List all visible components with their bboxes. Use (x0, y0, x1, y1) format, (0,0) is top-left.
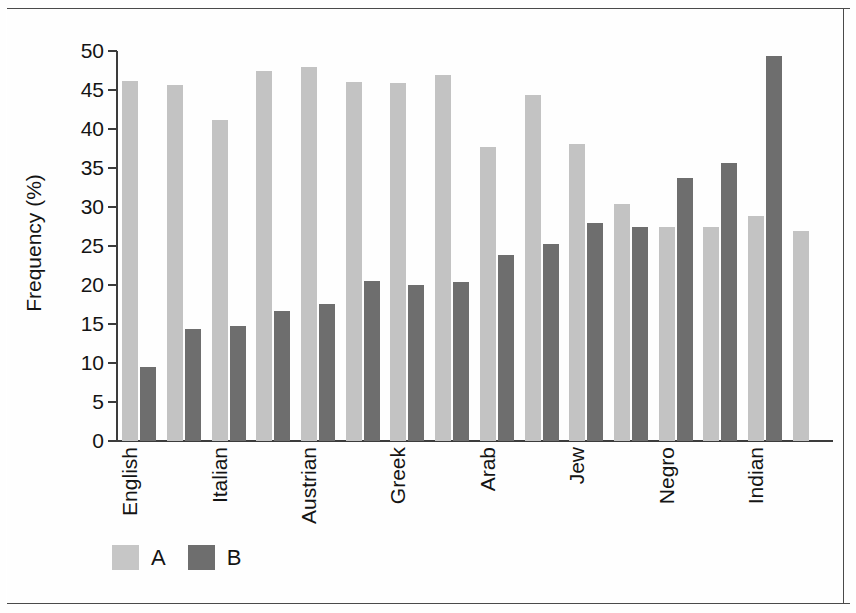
bar-b-group-3 (230, 326, 246, 441)
y-axis-tick (108, 362, 117, 364)
bar-b-group-12 (632, 227, 648, 441)
figure-frame-top-border (6, 8, 850, 9)
bar-a-group-13 (659, 227, 675, 441)
bar-a-group-4 (256, 71, 272, 441)
y-axis-tick (108, 89, 117, 91)
y-axis-tick-label: 10 (58, 352, 104, 373)
bar-b-group-9 (498, 255, 514, 441)
x-axis-tick-label-italian: Italian (208, 447, 232, 557)
bar-b-group-10 (543, 244, 559, 441)
bar-b-group-2 (185, 329, 201, 441)
y-axis-title: Frequency (%) (23, 113, 45, 373)
y-axis-tick-label: 40 (58, 118, 104, 139)
bar-a-group-5 (301, 67, 317, 441)
x-axis-tick-labels: EnglishItalianAustrianGreekArabJewNegroI… (0, 447, 856, 557)
y-axis-tick (108, 50, 117, 52)
y-axis-tick-label: 15 (58, 313, 104, 334)
bar-a-group-16 (793, 231, 809, 441)
legend-label-a: A (151, 547, 166, 569)
bar-b-group-11 (587, 223, 603, 441)
y-axis-tick-label: 5 (58, 391, 104, 412)
figure-container: 50454035302520151050 Frequency (%) Engli… (0, 0, 856, 613)
legend-label-b: B (227, 547, 242, 569)
bar-b-group-1 (140, 367, 156, 441)
y-axis-tick (108, 401, 117, 403)
bar-b-group-5 (319, 304, 335, 441)
bar-b-group-4 (274, 311, 290, 441)
y-axis-tick (108, 167, 117, 169)
x-axis-tick-label-english: English (118, 447, 142, 557)
legend-swatch-b-icon (188, 545, 215, 570)
x-axis-tick-label-austrian: Austrian (297, 447, 321, 557)
bar-b-group-6 (364, 281, 380, 441)
y-axis-tick (108, 440, 117, 442)
legend-swatch-a-icon (112, 545, 139, 570)
y-axis-tick (108, 128, 117, 130)
x-axis-tick-label-greek: Greek (386, 447, 410, 557)
plot-area (117, 51, 832, 441)
x-axis-tick-label-negro: Negro (655, 447, 679, 557)
bar-a-group-8 (435, 75, 451, 441)
y-axis-tick (108, 206, 117, 208)
bar-b-group-13 (677, 178, 693, 441)
bar-a-group-2 (167, 85, 183, 441)
x-axis-tick-label-jew: Jew (565, 447, 589, 557)
legend-item-a: A (112, 545, 166, 570)
bar-a-group-11 (569, 144, 585, 441)
bar-a-group-7 (390, 83, 406, 441)
y-axis-tick (108, 284, 117, 286)
bar-b-group-14 (721, 163, 737, 441)
chart-legend: AB (112, 545, 241, 570)
y-axis-tick-label: 50 (58, 40, 104, 61)
y-axis-tick-label: 30 (58, 196, 104, 217)
y-axis-tick-label: 20 (58, 274, 104, 295)
y-axis-tick-label: 45 (58, 79, 104, 100)
bar-a-group-1 (122, 81, 138, 441)
bar-b-group-15 (766, 56, 782, 441)
bar-a-group-6 (346, 82, 362, 441)
y-axis-tick (108, 245, 117, 247)
bar-a-group-3 (212, 120, 228, 441)
bar-b-group-8 (453, 282, 469, 441)
bar-a-group-10 (525, 95, 541, 441)
figure-frame-bottom-border (6, 603, 850, 604)
bar-b-group-7 (408, 285, 424, 441)
y-axis-tick-label: 25 (58, 235, 104, 256)
x-axis-tick-label-arab: Arab (476, 447, 500, 557)
y-axis-tick-label: 35 (58, 157, 104, 178)
y-axis-tick (108, 323, 117, 325)
bar-a-group-12 (614, 204, 630, 441)
x-axis-tick-label-indian: Indian (744, 447, 768, 557)
bar-a-group-9 (480, 147, 496, 441)
bar-a-group-14 (703, 227, 719, 441)
bar-a-group-15 (748, 216, 764, 441)
legend-item-b: B (188, 545, 242, 570)
